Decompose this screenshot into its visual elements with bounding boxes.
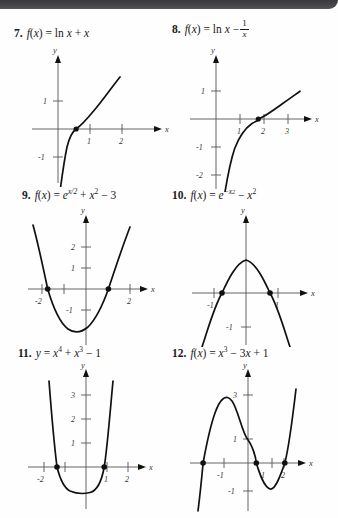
- graph-7-root-dot: [74, 126, 79, 131]
- graph-9: x y -2 2 2 1 -1: [20, 207, 172, 347]
- problem-10-formula: f(x) = e−x2 − x2: [190, 189, 256, 201]
- graph-7-yaxis-label: y: [52, 47, 57, 55]
- graph-8-root-dot: [256, 116, 261, 121]
- graph-9-curve: [33, 225, 130, 332]
- graph-7-xtick-2: 2: [119, 137, 123, 146]
- graph-11-xtick-1: 1: [104, 475, 108, 484]
- graph-7-xaxis-label: x: [164, 124, 169, 134]
- graph-7-ytick-neg1: -1: [38, 153, 45, 162]
- graph-9-ytick-1: 1: [71, 264, 75, 273]
- graph-8-xtick-1: 1: [237, 127, 241, 136]
- graph-12: x y -1 1 2 3 1 -1: [182, 363, 332, 515]
- graph-12-ytick-neg1: -1: [228, 487, 235, 496]
- graph-11-root-dot-left: [54, 464, 60, 470]
- graph-10-xtick-neg1: -1: [207, 301, 214, 310]
- graph-11-xaxis-label: x: [148, 462, 153, 472]
- fraction-one-over-x: 1x: [240, 19, 249, 39]
- textbook-page: 7. f(x) = ln x + x x y: [0, 9, 338, 518]
- graph-8-ytick-neg1: -1: [196, 143, 203, 152]
- graph-9-root-dot-left: [45, 286, 51, 292]
- graph-12-xtick-neg1: -1: [217, 471, 224, 480]
- graph-7-xtick-1: 1: [87, 137, 91, 146]
- graph-9-ytick-2: 2: [71, 243, 75, 252]
- problem-11-formula: y = x4 + x3 − 1: [36, 347, 101, 359]
- graph-11-root-dot-right: [101, 464, 107, 470]
- graph-7: x y 1 2 1 -1: [26, 47, 174, 187]
- graph-11-xtick-2: 2: [125, 475, 129, 484]
- graph-8-xtick-3: 3: [284, 127, 289, 136]
- graph-8-ytick-neg2: -2: [196, 171, 203, 180]
- scan-page-edge: [0, 0, 338, 9]
- graph-8-xtick-2: 2: [261, 127, 265, 136]
- graph-12-ytick-1: 1: [233, 435, 237, 444]
- graph-12-root-dot-mid: [254, 460, 260, 466]
- graph-10-root-dot-left: [219, 290, 225, 296]
- graph-12-xaxis-label: x: [308, 458, 313, 468]
- graph-9-yaxis-label: y: [80, 207, 85, 215]
- problem-11-number: 11.: [18, 347, 32, 359]
- graph-11-ytick-1: 1: [71, 439, 75, 448]
- graph-11-ytick-3: 3: [70, 391, 75, 400]
- graph-10-ytick-neg1: -1: [226, 323, 233, 332]
- graph-12-curve: [198, 389, 296, 511]
- graph-10: x y -1 1 -1: [184, 207, 334, 347]
- graph-9-ytick-neg1: -1: [66, 306, 73, 315]
- graph-8-curve: [225, 91, 300, 192]
- graph-12-ytick-3: 3: [232, 391, 237, 400]
- graph-12-root-dot-left: [200, 460, 206, 466]
- problem-12-formula: f(x) = x3 − 3x + 1: [190, 347, 268, 359]
- graph-9-xtick-neg2: -2: [35, 297, 42, 306]
- problem-12-number: 12.: [172, 347, 186, 359]
- graph-10-root-dot-right: [267, 290, 273, 296]
- graph-8: x y 1 2 3 1 -1 -2: [182, 47, 332, 192]
- graph-12-yaxis-label: y: [242, 363, 247, 370]
- problem-9-number: 9.: [22, 189, 31, 201]
- graph-11-ytick-2: 2: [71, 415, 75, 424]
- graph-9-xtick-2: 2: [127, 297, 131, 306]
- graph-11: x y -2 1 2 3 2 1: [20, 363, 172, 513]
- problem-7-formula: f(x) = ln x + x: [27, 27, 90, 39]
- graph-8-xaxis-label: x: [314, 114, 319, 124]
- problem-row-3: 11. y = x4 + x3 − 1 x y: [0, 343, 338, 518]
- problem-row-2: 9. f(x) = ex/2 + x2 − 3 x y -2: [0, 185, 338, 351]
- problem-row-1: 7. f(x) = ln x + x x y: [0, 23, 338, 191]
- problem-10-number: 10.: [172, 189, 186, 201]
- graph-8-yaxis-label: y: [210, 47, 215, 55]
- problem-8-formula: f(x) = ln x −1x: [185, 23, 250, 35]
- graph-10-xaxis-label: x: [310, 288, 315, 298]
- graph-10-yaxis-label: y: [240, 207, 245, 215]
- graph-11-yaxis-label: y: [80, 363, 85, 370]
- graph-12-root-dot-right: [282, 460, 288, 466]
- problem-7-number: 7.: [14, 27, 23, 39]
- graph-8-ytick-1: 1: [201, 87, 205, 96]
- graph-9-xaxis-label: x: [150, 284, 155, 294]
- problem-8-number: 8.: [172, 23, 181, 35]
- graph-9-root-dot-right: [106, 286, 112, 292]
- problem-9-formula: f(x) = ex/2 + x2 − 3: [35, 189, 117, 201]
- graph-11-xtick-neg2: -2: [37, 475, 44, 484]
- graph-7-ytick-1: 1: [43, 97, 47, 106]
